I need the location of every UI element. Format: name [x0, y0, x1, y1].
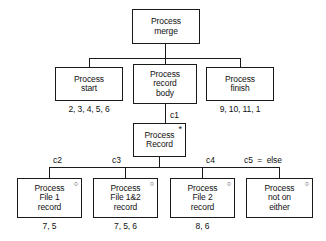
connector-drop-file1 [49, 167, 50, 178]
connector-drop-neither [279, 167, 280, 178]
condition-label-c1: c1 [170, 110, 179, 120]
jsp-structure-diagram: Process merge Process start Process reco… [0, 0, 326, 241]
caption-process-file2-record: 8, 6 [165, 221, 240, 231]
caption-process-file12-record: 7, 5, 6 [88, 221, 163, 231]
node-process-merge-line2: merge [154, 27, 178, 37]
connector-drop-finish [240, 58, 241, 67]
node-process-start-line2: start [81, 84, 97, 94]
selection-circle-icon: ○ [74, 180, 78, 188]
connector-level4-bus [49, 167, 279, 168]
node-process-merge[interactable]: Process merge [132, 9, 200, 44]
node-process-not-on-either-line3: either [269, 203, 290, 213]
node-process-file2-record[interactable]: ○ Process File 2 record [170, 178, 235, 218]
node-process-not-on-either[interactable]: ○ Process not on either [246, 178, 313, 218]
connector-drop-start [89, 58, 90, 67]
selection-circle-icon: ○ [227, 180, 231, 188]
node-process-file12-record[interactable]: ○ Process File 1&2 record [93, 178, 158, 218]
condition-label-c5: c5 = else [244, 155, 282, 165]
node-process-file12-record-line3: record [114, 203, 138, 213]
condition-label-c3: c3 [112, 155, 121, 165]
node-process-finish[interactable]: Process finish [206, 67, 274, 101]
node-process-record-body[interactable]: Process record body [133, 64, 197, 104]
node-process-record-line2: Record [146, 140, 173, 150]
selection-circle-icon: ○ [305, 180, 309, 188]
selection-circle-icon: ○ [150, 180, 154, 188]
caption-process-start: 2, 3, 4, 5, 6 [50, 104, 128, 114]
condition-label-c4: c4 [206, 155, 215, 165]
connector-record-body-to-record [165, 104, 166, 123]
connector-record-stem [159, 157, 160, 167]
node-process-file1-record[interactable]: ○ Process File 1 record [17, 178, 82, 218]
node-process-file2-record-line3: record [191, 203, 215, 213]
node-process-record[interactable]: * Process Record [133, 123, 186, 157]
iteration-asterisk-icon: * [179, 125, 182, 133]
node-process-file1-record-line3: record [38, 203, 62, 213]
connector-drop-file12 [125, 167, 126, 178]
caption-process-file1-record: 7, 5 [12, 221, 87, 231]
node-process-start[interactable]: Process start [55, 67, 123, 101]
condition-label-c2: c2 [53, 155, 62, 165]
caption-process-finish: 9, 10, 11, 1 [201, 104, 279, 114]
node-process-finish-line2: finish [230, 84, 249, 94]
node-process-record-body-line3: body [156, 89, 174, 99]
connector-drop-file2 [202, 167, 203, 178]
connector-root-stem [165, 44, 166, 58]
